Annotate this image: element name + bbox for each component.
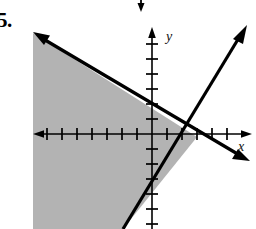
x-axis-right-arrowhead xyxy=(241,130,252,138)
solution-region-shading xyxy=(33,33,197,229)
x-axis-label: x xyxy=(238,140,244,154)
coordinate-plane xyxy=(0,0,256,229)
y-axis-label: y xyxy=(166,30,172,44)
y-axis-arrowhead xyxy=(148,27,156,38)
graph-figure: 5. xyxy=(0,0,256,229)
stray-down-arrow xyxy=(138,0,145,12)
